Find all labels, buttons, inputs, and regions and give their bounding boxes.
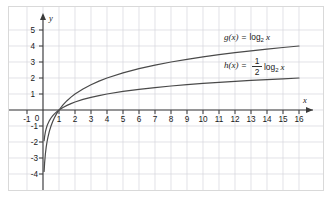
coordinate-plane: -1 1 2 3 4 5 6 7 8 9 10 11 12 13 14 15 1… bbox=[0, 0, 332, 197]
function-label-h-log: log bbox=[264, 62, 276, 72]
function-label-h-equals: = bbox=[242, 60, 247, 70]
plot-border bbox=[9, 7, 324, 191]
function-label-g-arg: (x) bbox=[229, 32, 239, 42]
x-tick-label: 4 bbox=[105, 115, 110, 124]
x-tick-label: 5 bbox=[121, 115, 126, 124]
function-label-h-var: x bbox=[280, 62, 285, 72]
x-tick-label: 14 bbox=[262, 115, 272, 124]
x-tick-label: 3 bbox=[89, 115, 94, 124]
function-label-h-lhs: h(x)= bbox=[224, 60, 247, 70]
y-tick-label: -4 bbox=[31, 170, 39, 179]
function-label-h-denominator: 2 bbox=[255, 67, 260, 77]
y-tick-label: 5 bbox=[30, 26, 35, 35]
x-tick-label: 16 bbox=[294, 115, 304, 124]
y-tick-label: 1 bbox=[30, 90, 35, 99]
x-tick-label: 6 bbox=[137, 115, 142, 124]
x-tick-label: 12 bbox=[230, 115, 240, 124]
function-label-g-var: x bbox=[265, 32, 270, 42]
x-tick-label: 15 bbox=[278, 115, 288, 124]
function-label-g-equals: = bbox=[242, 32, 247, 42]
function-label-h-rhs: log2x bbox=[264, 62, 285, 73]
x-tick-label: 8 bbox=[169, 115, 174, 124]
y-tick-label: 3 bbox=[30, 58, 35, 67]
x-tick-label: 2 bbox=[73, 115, 78, 124]
y-tick-label: 4 bbox=[30, 42, 35, 51]
x-tick-label: 1 bbox=[57, 115, 62, 124]
logarithm-graph-figure: -1 1 2 3 4 5 6 7 8 9 10 11 12 13 14 15 1… bbox=[0, 0, 332, 197]
y-tick-label: -3 bbox=[31, 154, 39, 163]
y-tick-label: -2 bbox=[31, 138, 39, 147]
x-tick-label: 7 bbox=[153, 115, 158, 124]
function-label-g-log: log bbox=[249, 32, 261, 42]
function-label-h-numerator: 1 bbox=[255, 56, 260, 66]
x-axis-label: x bbox=[302, 95, 307, 105]
x-tick-label: 10 bbox=[198, 115, 208, 124]
x-tick-label: 13 bbox=[246, 115, 256, 124]
x-tick-label: 11 bbox=[215, 115, 224, 124]
x-tick-label: 9 bbox=[185, 115, 190, 124]
y-tick-label: 2 bbox=[30, 74, 35, 83]
function-label-h-arg: (x) bbox=[229, 60, 239, 70]
y-tick-label: -1 bbox=[31, 122, 39, 131]
y-axis-label: y bbox=[48, 13, 53, 23]
